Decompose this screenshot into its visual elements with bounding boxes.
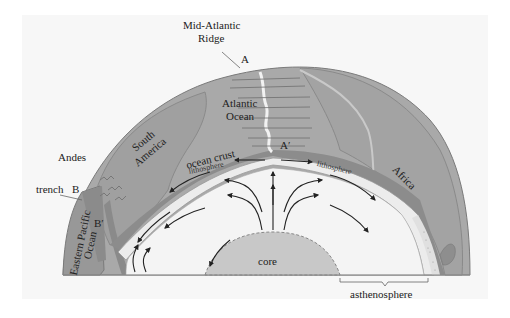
asthenosphere-brace bbox=[340, 278, 428, 286]
atlantic-label-line2: Ocean bbox=[226, 111, 254, 122]
ridge-label: Mid-Atlantic bbox=[183, 20, 240, 31]
point-a-prime-label: A′ bbox=[280, 140, 290, 151]
point-a-label: A bbox=[241, 54, 249, 65]
asthenosphere-label: asthenosphere bbox=[350, 289, 412, 300]
atlantic-label: Atlantic bbox=[222, 98, 257, 109]
point-b-label: B bbox=[72, 184, 79, 195]
point-b-prime-label: B′ bbox=[94, 218, 104, 229]
ridge-label-line2: Ridge bbox=[198, 33, 224, 44]
trench-label: trench bbox=[36, 184, 63, 195]
core-label: core bbox=[258, 256, 277, 267]
andes-label: Andes bbox=[58, 152, 86, 163]
